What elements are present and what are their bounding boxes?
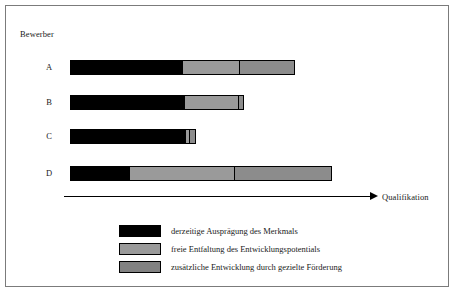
stacked-bar [70,129,196,144]
bar-segment-support [234,167,331,180]
legend-label: zusätzliche Entwicklung durch gezielte F… [171,262,342,272]
legend-item: freie Entfaltung des Entwicklungspotenti… [119,240,342,258]
bar-segment-free [184,96,238,109]
bar-row-label: B [42,97,56,107]
legend-label: derzeitige Ausprägung des Merkmals [171,226,298,236]
stacked-bar [70,60,295,75]
stacked-bar [70,95,244,110]
legend-label: freie Entfaltung des Entwicklungspotenti… [171,244,320,254]
legend-swatch [119,225,161,237]
bar-segment-current [71,61,182,74]
bar-segment-free [182,61,239,74]
bar-row-label: D [42,168,56,178]
bar-segment-current [71,96,184,109]
x-axis-arrow-icon [370,192,378,200]
bar-row-label: C [42,131,56,141]
stacked-bar [70,166,332,181]
legend-swatch [119,261,161,273]
legend-item: derzeitige Ausprägung des Merkmals [119,222,342,240]
bar-segment-current [71,167,129,180]
x-axis-line [64,196,372,197]
legend-item: zusätzliche Entwicklung durch gezielte F… [119,258,342,276]
bar-segment-support [189,130,195,143]
y-axis-title: Bewerber [20,29,54,39]
bar-segment-free [129,167,234,180]
bar-segment-support [239,61,294,74]
bar-segment-support [238,96,243,109]
legend-swatch [119,243,161,255]
bar-segment-current [71,130,185,143]
bar-row-label: A [42,62,56,72]
x-axis-title: Qualifikation [382,192,429,202]
legend: derzeitige Ausprägung des Merkmalsfreie … [119,222,342,276]
chart-frame: Bewerber ABCD Qualifikation derzeitige A… [5,5,449,287]
